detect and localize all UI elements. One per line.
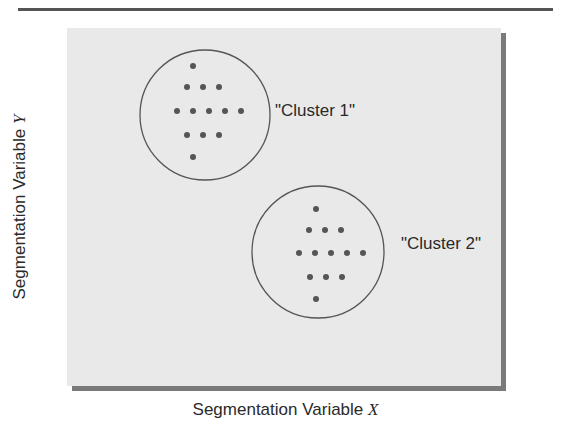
- cluster-2-label: "Cluster 2": [401, 234, 481, 254]
- x-axis-label-text: Segmentation Variable: [193, 400, 364, 419]
- cluster-1-boundary: [140, 50, 270, 180]
- cluster-1-label: "Cluster 1": [275, 101, 355, 121]
- cluster-1: [140, 50, 270, 180]
- x-axis-label: Segmentation Variable X: [0, 400, 571, 420]
- cluster-1-points: [174, 63, 244, 160]
- y-axis-label-text: Segmentation Variable: [10, 129, 29, 300]
- y-axis-variable: Y: [10, 115, 29, 124]
- cluster-2-points: [296, 206, 366, 302]
- cluster-2: [252, 186, 384, 318]
- y-axis-label: Segmentation Variable Y: [10, 115, 30, 300]
- x-axis-variable: X: [368, 400, 378, 419]
- cluster-diagram: [0, 0, 571, 429]
